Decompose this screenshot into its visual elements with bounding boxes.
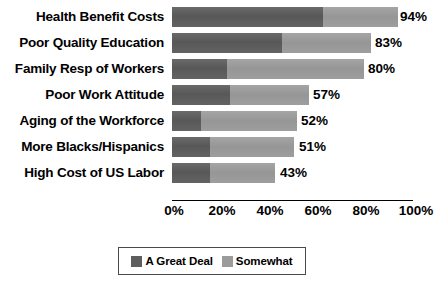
bar-segment-somewhat xyxy=(282,33,371,53)
plot-area: Health Benefit Costs 94% Poor Quality Ed… xyxy=(0,4,441,200)
bar-segment-somewhat xyxy=(230,85,309,105)
bar-segment-somewhat xyxy=(210,137,294,157)
legend-swatch-icon xyxy=(222,256,233,267)
bar-value-label: 83% xyxy=(375,30,402,56)
bar-segment-somewhat xyxy=(323,7,397,27)
bar-value-label: 80% xyxy=(368,56,395,82)
bar-segment-a-great-deal xyxy=(172,163,210,183)
x-axis-tick: 20% xyxy=(208,203,235,218)
bar-value-label: 52% xyxy=(301,108,328,134)
stacked-bar-chart: Health Benefit Costs 94% Poor Quality Ed… xyxy=(0,0,441,288)
bar-value-label: 43% xyxy=(280,160,307,186)
legend-entry-somewhat: Somewhat xyxy=(222,255,293,267)
legend-label: Somewhat xyxy=(236,255,293,267)
legend-swatch-icon xyxy=(131,256,142,267)
bar-track xyxy=(172,137,412,157)
category-label: Health Benefit Costs xyxy=(0,4,168,30)
bar-value-label: 94% xyxy=(400,4,427,30)
legend-entry-a-great-deal: A Great Deal xyxy=(131,255,212,267)
bar-segment-a-great-deal xyxy=(172,7,323,27)
bar-row: Family Resp of Workers 80% xyxy=(0,56,441,82)
bar-row: Health Benefit Costs 94% xyxy=(0,4,441,30)
bar-row: High Cost of US Labor 43% xyxy=(0,160,441,186)
bar-value-label: 51% xyxy=(299,134,326,160)
bar-segment-a-great-deal xyxy=(172,111,201,131)
chart-legend: A Great Deal Somewhat xyxy=(118,247,306,275)
x-axis-tick: 0% xyxy=(164,203,184,218)
bar-track xyxy=(172,111,412,131)
bar-segment-somewhat xyxy=(201,111,297,131)
bar-segment-somewhat xyxy=(210,163,275,183)
x-axis-tick: 100% xyxy=(399,203,434,218)
category-label: More Blacks/Hispanics xyxy=(0,134,168,160)
x-axis-tick-labels: 0% 20% 40% 60% 80% 100% xyxy=(0,203,441,223)
bar-row: Poor Quality Education 83% xyxy=(0,30,441,56)
category-label: High Cost of US Labor xyxy=(0,160,168,186)
bar-track xyxy=(172,85,412,105)
bar-segment-a-great-deal xyxy=(172,59,227,79)
x-axis-tick: 40% xyxy=(256,203,283,218)
bar-segment-a-great-deal xyxy=(172,137,210,157)
category-label: Poor Work Attitude xyxy=(0,82,168,108)
category-label: Family Resp of Workers xyxy=(0,56,168,82)
legend-label: A Great Deal xyxy=(145,255,212,267)
x-axis-tick: 80% xyxy=(352,203,379,218)
bar-row: More Blacks/Hispanics 51% xyxy=(0,134,441,160)
x-axis-line xyxy=(172,200,413,201)
bar-value-label: 57% xyxy=(313,82,340,108)
x-axis-tick: 60% xyxy=(304,203,331,218)
bar-segment-a-great-deal xyxy=(172,33,282,53)
bar-row: Poor Work Attitude 57% xyxy=(0,82,441,108)
category-label: Poor Quality Education xyxy=(0,30,168,56)
bar-row: Aging of the Workforce 52% xyxy=(0,108,441,134)
category-label: Aging of the Workforce xyxy=(0,108,168,134)
bar-segment-somewhat xyxy=(227,59,364,79)
bar-segment-a-great-deal xyxy=(172,85,230,105)
bar-track xyxy=(172,7,412,27)
